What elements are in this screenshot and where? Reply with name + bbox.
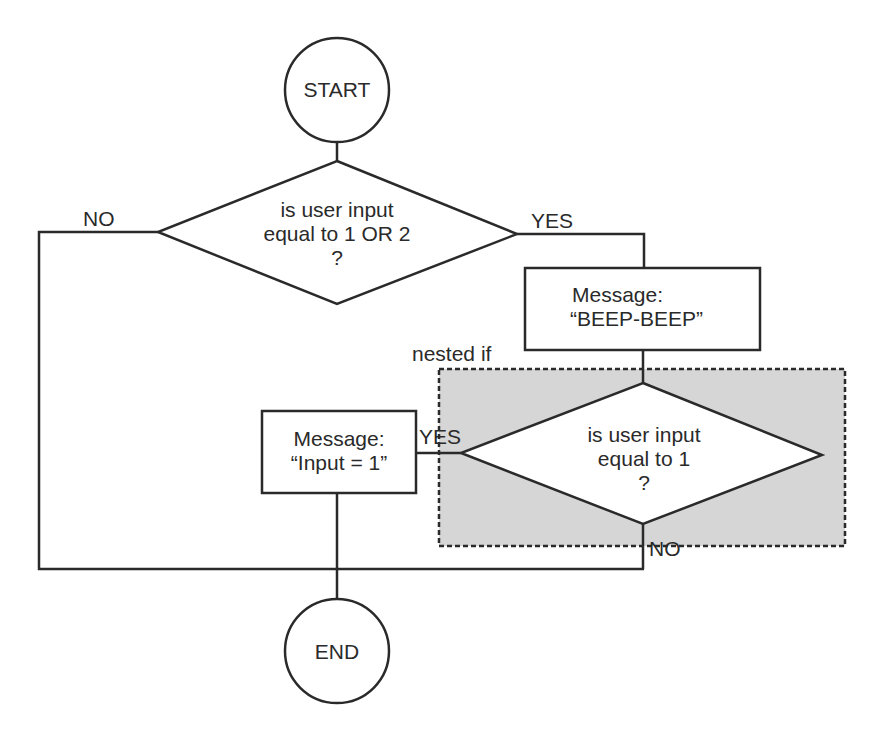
decision2-line-1: is user input: [587, 423, 700, 447]
decision2-text: is user input equal to 1 ?: [587, 423, 700, 495]
decision1-text: is user input equal to 1 OR 2 ?: [263, 198, 410, 270]
start-label: START: [304, 78, 371, 102]
decision1-no-label: NO: [83, 207, 115, 231]
flowchart-canvas: [0, 0, 880, 741]
message-beep-line-2: “BEEP-BEEP”: [570, 307, 703, 331]
decision2-no-label: NO: [649, 537, 681, 561]
message-input-line-1: Message:: [291, 427, 387, 451]
decision1-line-2: equal to 1 OR 2: [263, 222, 410, 246]
message-beep-text: Message: “BEEP-BEEP”: [572, 283, 703, 331]
decision1-yes-label: YES: [531, 209, 573, 233]
decision2-line-3: ?: [587, 471, 700, 495]
decision1-line-3: ?: [263, 246, 410, 270]
message-input-line-2: “Input = 1”: [291, 451, 387, 475]
nested-if-label: nested if: [412, 342, 491, 366]
message-input-text: Message: “Input = 1”: [291, 427, 387, 475]
decision2-yes-label: YES: [419, 425, 461, 449]
end-label: END: [315, 640, 359, 664]
message-beep-line-1: Message:: [572, 283, 703, 307]
decision2-line-2: equal to 1: [587, 447, 700, 471]
decision1-line-1: is user input: [263, 198, 410, 222]
edge-decision1-yes: [517, 234, 644, 268]
